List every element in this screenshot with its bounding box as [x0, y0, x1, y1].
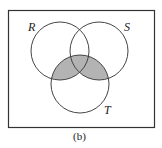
label-s: S: [124, 21, 130, 33]
label-r: R: [28, 21, 35, 33]
venn-diagram: [0, 0, 162, 148]
label-t: T: [104, 104, 111, 116]
caption: (b): [73, 131, 86, 142]
